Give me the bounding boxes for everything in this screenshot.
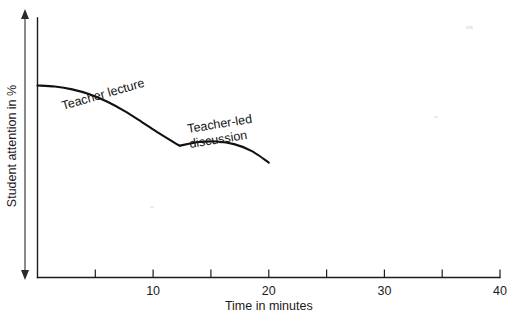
x-axis-tick-label-20: 20 — [262, 284, 276, 298]
annotation-teacher-led-discussion-group: Teacher-led discussion — [186, 112, 253, 151]
y-axis-title: Student attention in % — [5, 85, 19, 207]
scan-speck — [466, 26, 473, 29]
y-axis-arrow-down-icon — [21, 270, 29, 280]
x-axis-tick-labels-group: 10 20 30 40 — [146, 284, 507, 298]
x-axis-tick-label-40: 40 — [493, 284, 507, 298]
scan-speck — [434, 116, 438, 118]
annotation-teacher-lecture-group: Teacher lecture — [60, 76, 146, 113]
x-axis-ticks-group — [95, 270, 500, 278]
x-axis-title: Time in minutes — [225, 299, 313, 313]
annotation-teacher-lecture: Teacher lecture — [60, 76, 146, 113]
scan-speck — [150, 206, 154, 208]
x-axis-tick-label-10: 10 — [146, 284, 160, 298]
chart-canvas: Student attention in % 10 20 30 40 Time … — [0, 0, 521, 319]
y-axis-label-rule-group — [21, 9, 29, 280]
x-axis-tick-label-30: 30 — [377, 284, 391, 298]
chart-figure: Student attention in % 10 20 30 40 Time … — [0, 0, 521, 319]
plot-axes-group — [38, 18, 501, 278]
y-axis-arrow-up-icon — [21, 9, 29, 19]
